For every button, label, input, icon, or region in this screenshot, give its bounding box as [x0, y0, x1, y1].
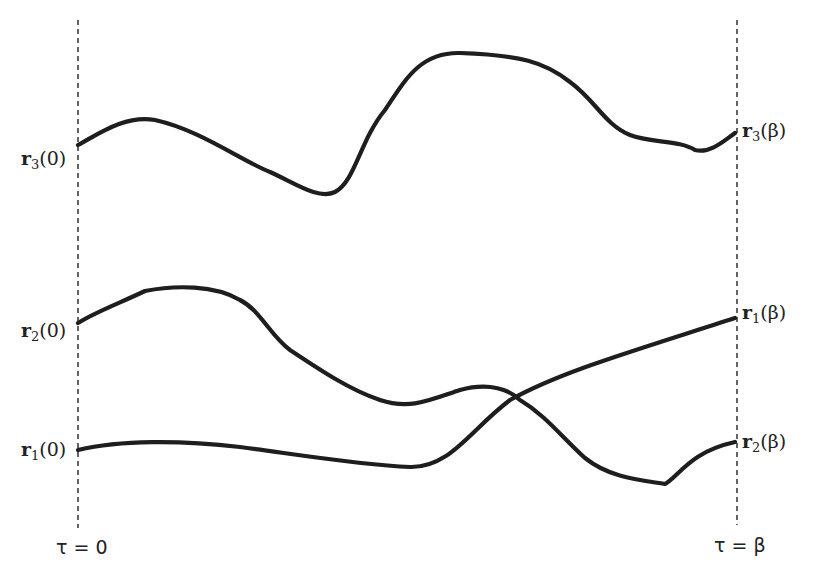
label-tau-beta: τ = β [714, 534, 766, 556]
label-tau-0: τ = 0 [56, 536, 108, 558]
path-r3 [78, 53, 735, 194]
path-r1 [78, 318, 735, 467]
label-r1-0: r1(0) [21, 440, 66, 462]
label-r2-0: r2(0) [21, 321, 66, 343]
label-r3-beta: r3(β) [742, 121, 786, 143]
path-r2 [78, 287, 735, 484]
label-r2-beta: r2(β) [742, 432, 786, 454]
label-r3-0: r3(0) [21, 149, 66, 171]
path-diagram [0, 0, 816, 569]
label-r1-beta: r1(β) [742, 303, 786, 325]
